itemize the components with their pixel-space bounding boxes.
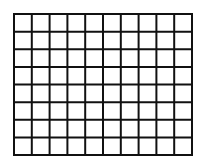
grid-diagram [13,13,195,158]
